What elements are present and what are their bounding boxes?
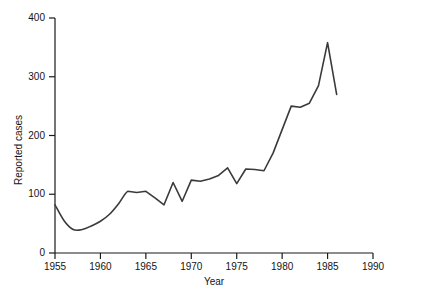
y-tick-label: 200 <box>28 130 45 141</box>
y-axis: 0100200300400 <box>28 12 55 258</box>
x-tick-label: 1970 <box>180 261 203 272</box>
y-tick-label: 400 <box>28 12 45 23</box>
x-axis-title: Year <box>204 276 225 287</box>
x-axis: 19551960196519701975198019851990 <box>44 253 385 272</box>
x-tick-label: 1965 <box>135 261 158 272</box>
x-tick-label: 1980 <box>271 261 294 272</box>
line-chart: 0100200300400 19551960196519701975198019… <box>0 0 430 296</box>
x-tick-label: 1955 <box>44 261 67 272</box>
y-axis-ticks: 0100200300400 <box>28 12 55 258</box>
x-tick-label: 1990 <box>362 261 385 272</box>
y-tick-label: 0 <box>39 247 45 258</box>
plot-area <box>55 43 337 231</box>
y-axis-title: Reported cases <box>13 115 24 185</box>
x-tick-label: 1960 <box>89 261 112 272</box>
x-tick-label: 1985 <box>316 261 339 272</box>
chart-container: 0100200300400 19551960196519701975198019… <box>0 0 430 296</box>
y-tick-label: 100 <box>28 188 45 199</box>
x-axis-ticks: 19551960196519701975198019851990 <box>44 253 385 272</box>
y-tick-label: 300 <box>28 71 45 82</box>
x-tick-label: 1975 <box>226 261 249 272</box>
data-series-line <box>55 43 337 231</box>
